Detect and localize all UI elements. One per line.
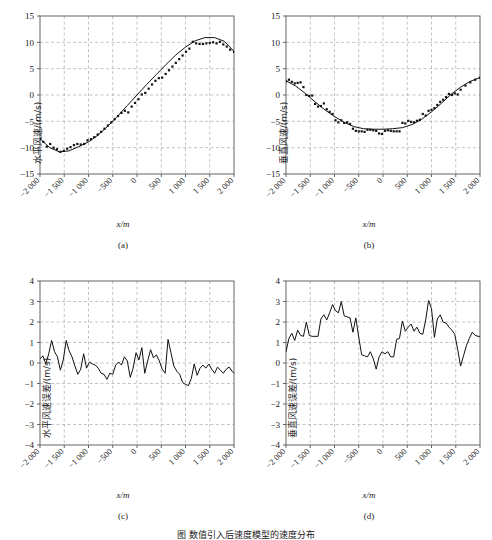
x-axis-label-d: x/m xyxy=(246,490,492,500)
svg-text:−500: −500 xyxy=(341,446,360,465)
panel-caption-d: (d) xyxy=(246,511,492,521)
svg-text:−1 000: −1 000 xyxy=(312,446,336,470)
svg-text:3: 3 xyxy=(276,297,281,307)
svg-text:2 000: 2 000 xyxy=(215,175,236,196)
svg-text:500: 500 xyxy=(393,175,409,191)
svg-text:2: 2 xyxy=(30,317,35,327)
svg-text:5: 5 xyxy=(30,64,35,74)
svg-text:4: 4 xyxy=(30,276,35,286)
svg-text:−500: −500 xyxy=(341,175,360,194)
svg-text:−1 500: −1 500 xyxy=(42,446,66,470)
y-axis-label-d: 垂直风速误差/(m/s) xyxy=(286,357,299,438)
svg-text:4: 4 xyxy=(276,276,281,286)
figure-four-panel-wind-speed: 151050−5−10−15−2 000−1 500−1 000−5000500… xyxy=(0,0,492,540)
y-axis-label-c: 水平风速误差/(m/s) xyxy=(40,357,53,438)
panel-c: 43210−1−2−3−4−2 000−1 500−1 000−50005001… xyxy=(0,265,246,530)
chart-svg-d: 43210−1−2−3−4−2 000−1 500−1 000−50005001… xyxy=(246,265,492,515)
svg-text:−3: −3 xyxy=(270,420,280,430)
svg-text:−3: −3 xyxy=(24,420,34,430)
panel-b: 151050−5−10−15−2 000−1 500−1 000−5000500… xyxy=(246,0,492,265)
svg-text:−1 500: −1 500 xyxy=(42,175,66,199)
svg-text:−2 000: −2 000 xyxy=(17,446,41,470)
svg-text:1: 1 xyxy=(276,338,281,348)
svg-text:1 500: 1 500 xyxy=(437,446,458,467)
svg-text:500: 500 xyxy=(147,175,163,191)
svg-text:500: 500 xyxy=(147,446,163,462)
svg-text:−500: −500 xyxy=(95,175,114,194)
y-axis-label-b: 垂直风速/(m/s) xyxy=(277,101,290,164)
svg-text:−1: −1 xyxy=(270,379,280,389)
svg-text:−1 000: −1 000 xyxy=(66,175,90,199)
svg-text:2 000: 2 000 xyxy=(215,446,236,467)
svg-text:5: 5 xyxy=(276,64,281,74)
svg-text:1 500: 1 500 xyxy=(191,446,212,467)
svg-text:−500: −500 xyxy=(95,446,114,465)
svg-text:0: 0 xyxy=(276,90,281,100)
svg-text:2 000: 2 000 xyxy=(461,175,482,196)
svg-text:0: 0 xyxy=(276,358,281,368)
svg-text:1 500: 1 500 xyxy=(437,175,458,196)
svg-text:10: 10 xyxy=(271,38,281,48)
svg-text:1 000: 1 000 xyxy=(412,175,433,196)
panel-caption-a: (a) xyxy=(0,240,246,250)
panel-a: 151050−5−10−15−2 000−1 500−1 000−5000500… xyxy=(0,0,246,265)
y-axis-label-a: 水平风速/(m/s) xyxy=(31,101,44,164)
svg-text:−1 500: −1 500 xyxy=(288,446,312,470)
svg-text:1: 1 xyxy=(30,338,35,348)
x-axis-label-a: x/m xyxy=(0,219,246,229)
chart-svg-c: 43210−1−2−3−4−2 000−1 500−1 000−50005001… xyxy=(0,265,246,515)
svg-text:−1 000: −1 000 xyxy=(66,446,90,470)
x-axis-label-b: x/m xyxy=(246,219,492,229)
svg-text:3: 3 xyxy=(30,297,35,307)
svg-text:1 000: 1 000 xyxy=(166,175,187,196)
svg-text:−1 000: −1 000 xyxy=(312,175,336,199)
svg-text:2: 2 xyxy=(276,317,281,327)
svg-text:−1: −1 xyxy=(24,379,34,389)
figure-caption: 图 数值引入后速度模型的速度分布 xyxy=(0,528,492,540)
svg-text:1 500: 1 500 xyxy=(191,175,212,196)
plot-area-d: 43210−1−2−3−4−2 000−1 500−1 000−50005001… xyxy=(246,265,492,511)
svg-text:−1 500: −1 500 xyxy=(288,175,312,199)
svg-text:−2: −2 xyxy=(270,399,280,409)
panel-caption-b: (b) xyxy=(246,240,492,250)
x-axis-label-c: x/m xyxy=(0,490,246,500)
svg-text:10: 10 xyxy=(25,38,35,48)
panel-caption-c: (c) xyxy=(0,511,246,521)
svg-text:1 000: 1 000 xyxy=(166,446,187,467)
svg-text:0: 0 xyxy=(30,90,35,100)
svg-text:0: 0 xyxy=(30,358,35,368)
svg-text:−2: −2 xyxy=(24,399,34,409)
plot-area-c: 43210−1−2−3−4−2 000−1 500−1 000−50005001… xyxy=(0,265,246,511)
svg-text:15: 15 xyxy=(25,11,35,21)
svg-text:15: 15 xyxy=(271,11,281,21)
svg-text:2 000: 2 000 xyxy=(461,446,482,467)
svg-text:1 000: 1 000 xyxy=(412,446,433,467)
panel-d: 43210−1−2−3−4−2 000−1 500−1 000−50005001… xyxy=(246,265,492,530)
svg-text:−2 000: −2 000 xyxy=(263,446,287,470)
svg-text:500: 500 xyxy=(393,446,409,462)
